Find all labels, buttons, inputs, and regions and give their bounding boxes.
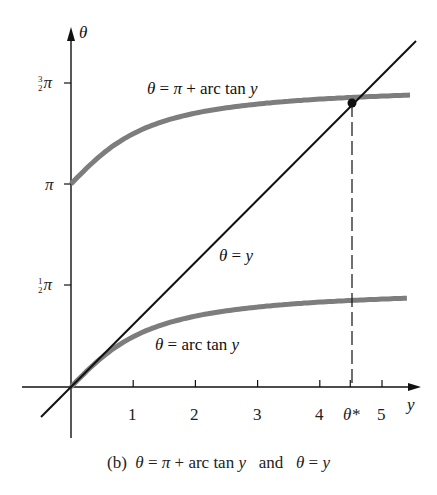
y-tick-three-half-pi: 32π bbox=[38, 74, 52, 93]
x-tick-4: 4 bbox=[315, 406, 324, 423]
y-tick-pi: π bbox=[45, 176, 54, 193]
y-axis-label: θ bbox=[79, 24, 87, 41]
x-axis-arrow-icon bbox=[408, 383, 421, 391]
x-tick-5: 5 bbox=[377, 406, 386, 423]
y-axis-arrow-icon bbox=[67, 27, 75, 41]
intersection-point bbox=[348, 99, 357, 108]
x-tick-theta-star: θ* bbox=[343, 406, 360, 423]
x-tick-2: 2 bbox=[190, 406, 199, 423]
x-tick-3: 3 bbox=[253, 406, 262, 423]
x-tick-1: 1 bbox=[128, 406, 137, 423]
diagonal-label: θ = y bbox=[219, 247, 253, 264]
upper-curve-label: θ = π + arc tan y bbox=[147, 80, 258, 97]
figure-caption: (b) θ = π + arc tan y and θ = y bbox=[0, 453, 437, 473]
x-axis-label: y bbox=[407, 396, 415, 413]
fraction: 12 bbox=[38, 277, 43, 295]
y-tick-half-pi: 12π bbox=[38, 276, 52, 295]
lower-curve-label: θ = arc tan y bbox=[155, 336, 239, 353]
upper-curve bbox=[71, 95, 410, 184]
fraction: 32 bbox=[38, 75, 43, 93]
